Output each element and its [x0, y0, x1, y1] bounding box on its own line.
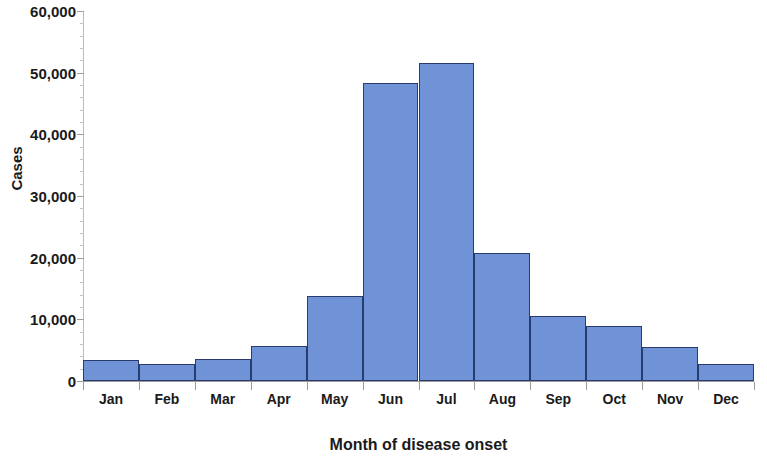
plot-area: [83, 11, 754, 381]
bar-may: [307, 296, 363, 381]
bar-sep: [530, 316, 586, 381]
y-tick-label: 10,000: [4, 311, 76, 328]
bar-feb: [139, 364, 195, 381]
x-tick-mark: [139, 382, 140, 390]
x-tick-mark: [642, 382, 643, 390]
x-tick-mark: [586, 382, 587, 390]
x-tick-label: Jul: [436, 391, 456, 407]
x-tick-label: Aug: [489, 391, 516, 407]
bar-nov: [642, 347, 698, 381]
y-tick-label: 0: [4, 373, 76, 390]
x-tick-mark: [307, 382, 308, 390]
x-tick-label: Sep: [545, 391, 571, 407]
x-axis-tick-labels: JanFebMarAprMayJunJulAugSepOctNovDec: [83, 391, 754, 415]
x-tick-mark: [419, 382, 420, 390]
y-tick-label: 40,000: [4, 126, 76, 143]
x-tick-mark: [195, 382, 196, 390]
y-axis-tick-labels: 010,00020,00030,00040,00050,00060,000: [0, 0, 76, 469]
bar-apr: [251, 346, 307, 381]
bar-jul: [419, 63, 475, 381]
x-tick-label: Nov: [657, 391, 683, 407]
x-tick-label: Mar: [210, 391, 235, 407]
x-tick-label: Jun: [378, 391, 403, 407]
x-tick-label: Oct: [603, 391, 626, 407]
x-tick-label: Dec: [713, 391, 739, 407]
y-tick-label: 30,000: [4, 188, 76, 205]
histogram-figure: Cases 010,00020,00030,00040,00050,00060,…: [0, 0, 767, 469]
bar-aug: [474, 253, 530, 381]
x-axis-title: Month of disease onset: [83, 436, 754, 454]
x-tick-label: May: [321, 391, 348, 407]
x-tick-mark: [754, 382, 755, 390]
bar-dec: [698, 364, 754, 381]
x-tick-label: Apr: [267, 391, 291, 407]
bar-oct: [586, 326, 642, 382]
y-tick-label: 60,000: [4, 3, 76, 20]
x-tick-label: Jan: [99, 391, 123, 407]
y-tick-label: 20,000: [4, 249, 76, 266]
x-tick-mark: [474, 382, 475, 390]
bar-jan: [83, 360, 139, 381]
x-tick-mark: [83, 382, 84, 390]
bar-jun: [363, 83, 419, 381]
x-tick-mark: [530, 382, 531, 390]
y-tick-label: 50,000: [4, 64, 76, 81]
x-tick-mark: [251, 382, 252, 390]
x-tick-label: Feb: [154, 391, 179, 407]
bar-mar: [195, 359, 251, 381]
x-tick-mark: [363, 382, 364, 390]
x-tick-mark: [698, 382, 699, 390]
